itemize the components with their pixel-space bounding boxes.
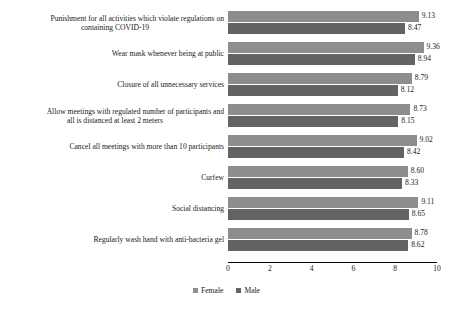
chart-category-row: Wear mask whenever being at public9.368.…	[0, 39, 453, 70]
category-label: Cancel all meetings with more than 10 pa…	[6, 142, 224, 151]
bar-male	[228, 23, 405, 34]
bar-value-label: 8.94	[418, 53, 431, 64]
bar-group: 9.138.47	[228, 11, 453, 36]
bar-male	[228, 240, 408, 251]
x-tick-label: 8	[393, 264, 397, 273]
bar-value-label: 9.13	[422, 10, 435, 21]
bar-male	[228, 178, 402, 189]
x-tick-label: 6	[351, 264, 355, 273]
bar-female	[228, 42, 424, 53]
category-label: Punishment for all activities which viol…	[6, 14, 224, 33]
bar-value-label: 8.65	[412, 208, 425, 219]
bar-value-label: 9.36	[427, 41, 440, 52]
x-tick-label: 2	[268, 264, 272, 273]
chart-category-row: Curfew8.608.33	[0, 163, 453, 194]
bar-female	[228, 166, 408, 177]
bar-male	[228, 209, 409, 220]
bar-male	[228, 54, 415, 65]
bar-value-label: 8.47	[408, 22, 421, 33]
category-label: Regularly wash hand with anti-bacteria g…	[6, 235, 224, 244]
chart-category-row: Regularly wash hand with anti-bacteria g…	[0, 225, 453, 256]
bar-group: 9.368.94	[228, 42, 453, 67]
bar-value-label: 8.60	[411, 165, 424, 176]
chart-category-row: Punishment for all activities which viol…	[0, 8, 453, 39]
category-label: Wear mask whenever being at public	[6, 49, 224, 58]
chart-category-row: Closure of all unnecessary services8.798…	[0, 70, 453, 101]
category-label: Closure of all unnecessary services	[6, 80, 224, 89]
bar-value-label: 8.79	[415, 72, 428, 83]
category-label: Curfew	[6, 173, 224, 182]
bar-female	[228, 104, 410, 115]
chart-category-row: Social distancing9.118.65	[0, 194, 453, 225]
chart-legend: FemaleMale	[0, 286, 453, 295]
bar-value-label: 8.78	[415, 227, 428, 238]
bar-value-label: 9.11	[421, 196, 434, 207]
category-label: Allow meetings with regulated number of …	[6, 107, 224, 126]
bar-male	[228, 85, 398, 96]
bar-group: 8.798.12	[228, 73, 453, 98]
bar-chart: Punishment for all activities which viol…	[0, 0, 453, 311]
legend-swatch-icon	[236, 288, 241, 293]
bar-female	[228, 135, 417, 146]
bar-value-label: 8.15	[401, 115, 414, 126]
x-tick-label: 4	[310, 264, 314, 273]
plot-area: Punishment for all activities which viol…	[0, 0, 453, 262]
chart-category-row: Cancel all meetings with more than 10 pa…	[0, 132, 453, 163]
bar-male	[228, 116, 398, 127]
bar-group: 9.028.42	[228, 135, 453, 160]
legend-item-female[interactable]: Female	[193, 286, 223, 295]
bar-female	[228, 73, 412, 84]
bar-group: 8.608.33	[228, 166, 453, 191]
x-axis-tick-labels: 0246810	[0, 263, 453, 277]
legend-label: Female	[201, 286, 223, 295]
bar-value-label: 8.12	[401, 84, 414, 95]
legend-swatch-icon	[193, 288, 198, 293]
x-tick-label: 0	[226, 264, 230, 273]
legend-item-male[interactable]: Male	[236, 286, 260, 295]
bar-female	[228, 228, 412, 239]
x-tick-label: 10	[433, 264, 441, 273]
bar-female	[228, 11, 419, 22]
category-label: Social distancing	[6, 204, 224, 213]
legend-label: Male	[244, 286, 260, 295]
bar-female	[228, 197, 418, 208]
bar-value-label: 8.73	[413, 103, 426, 114]
chart-category-row: Allow meetings with regulated number of …	[0, 101, 453, 132]
bar-value-label: 8.33	[405, 177, 418, 188]
bar-group: 8.788.62	[228, 228, 453, 253]
bar-value-label: 8.42	[407, 146, 420, 157]
bar-value-label: 9.02	[420, 134, 433, 145]
bar-value-label: 8.62	[411, 239, 424, 250]
bar-male	[228, 147, 404, 158]
bar-group: 9.118.65	[228, 197, 453, 222]
bar-group: 8.738.15	[228, 104, 453, 129]
